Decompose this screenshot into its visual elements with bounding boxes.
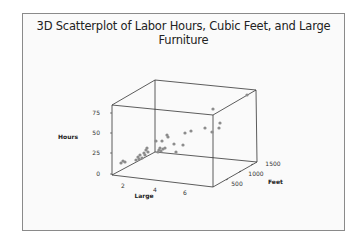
hours-tick-50: 50 [92,129,100,136]
hours-axis-label: Hours [58,133,78,140]
large-tick-6: 6 [183,189,187,196]
hours-tick-0: 0 [96,170,100,177]
plot-area: 75 50 25 0 Hours 2 4 6 Large 500 1000 15… [0,0,362,244]
large-axis-label: Large [134,192,153,200]
feet-tick-1000: 1000 [248,170,263,177]
data-points [119,93,248,164]
hours-tick-25: 25 [92,149,100,156]
feet-tick-500: 500 [231,180,243,187]
feet-axis-label: Feet [268,178,283,185]
large-tick-2: 2 [121,182,125,189]
hours-tick-75: 75 [92,109,100,116]
feet-tick-1500: 1500 [265,160,280,167]
large-tick-4: 4 [153,186,157,193]
